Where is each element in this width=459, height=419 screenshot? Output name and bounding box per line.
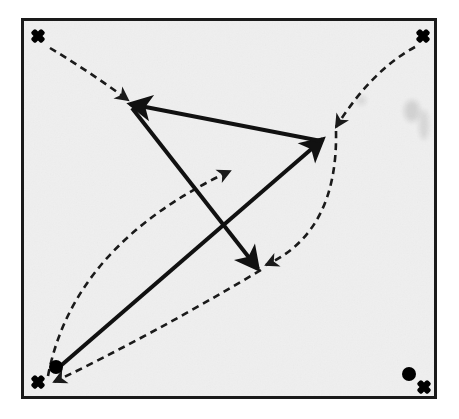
scan-smudge-upper-right [404, 100, 420, 122]
scan-smudge-right-edge [419, 110, 429, 140]
paper-texture [21, 18, 437, 399]
diagram-canvas [0, 0, 459, 419]
figure-root: Multi-agent trajectory diagram Square bo… [0, 0, 459, 419]
agent-start-bottom-left [49, 360, 63, 374]
field-frame [21, 18, 437, 399]
agent-parked-bottom-right [402, 367, 416, 381]
